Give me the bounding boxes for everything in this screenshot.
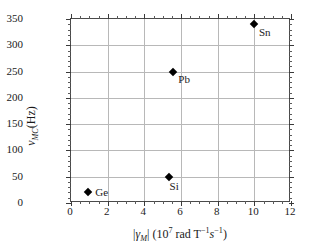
y-axis-tick-minor (68, 40, 71, 41)
y-axis-tick-minor-right (289, 145, 292, 146)
y-axis-tick-minor-right (289, 77, 292, 78)
x-axis-tick-minor (282, 201, 283, 204)
x-axis-tick-minor (154, 201, 155, 204)
y-axis-tick-label: 50 (12, 170, 23, 181)
x-axis-tick-minor (117, 201, 118, 204)
y-axis-tick-minor-right (289, 82, 292, 83)
gridline-vertical (181, 19, 182, 201)
gridline-vertical (254, 19, 255, 201)
x-axis-tick-minor (264, 201, 265, 204)
x-axis-tick-minor-top (99, 16, 100, 19)
y-axis-tick-minor (68, 35, 71, 36)
x-axis-tick-minor-top (80, 16, 81, 19)
y-axis-tick-minor (68, 114, 71, 115)
y-axis-tick-minor (68, 103, 71, 104)
scatter-chart-figure: νMC(Hz) |γM| (107 rad T−1s−1) GeSiPbSn 0… (0, 0, 316, 251)
y-axis-tick-minor-right (289, 40, 292, 41)
x-axis-tick-label: 6 (177, 206, 183, 217)
x-axis-tick-minor (99, 201, 100, 204)
x-axis-tick-minor-top (245, 16, 246, 19)
y-axis-tick-minor (68, 187, 71, 188)
x-axis-tick-major-top (218, 14, 219, 19)
y-axis-tick-minor (68, 87, 71, 88)
y-axis-tick-major (66, 98, 71, 99)
y-axis-tick-minor (68, 93, 71, 94)
y-axis-tick-minor (68, 182, 71, 183)
x-axis-bar-close: | (147, 227, 149, 241)
x-axis-paren-close: ) (223, 227, 227, 241)
y-axis-tick-minor-right (289, 93, 292, 94)
gridline-vertical (218, 19, 219, 201)
y-axis-tick-minor-right (289, 192, 292, 193)
y-axis-tick-major (66, 150, 71, 151)
y-axis-tick-minor-right (289, 51, 292, 52)
y-axis-tick-minor-right (289, 140, 292, 141)
gridline-horizontal (71, 98, 289, 99)
x-axis-rad-unit: rad T (172, 227, 200, 241)
x-axis-tick-minor-top (154, 16, 155, 19)
x-axis-tick-minor (163, 201, 164, 204)
y-axis-tick-minor (68, 198, 71, 199)
y-axis-tick-major (66, 45, 71, 46)
y-axis-tick-minor (68, 51, 71, 52)
y-axis-tick-major (66, 19, 71, 20)
y-axis-tick-minor-right (289, 61, 292, 62)
gridline-vertical (108, 19, 109, 201)
x-axis-tick-label: 2 (104, 206, 110, 217)
gridline-horizontal (71, 124, 289, 125)
data-point-pb (169, 67, 177, 75)
y-axis-tick-minor (68, 166, 71, 167)
plot-area: GeSiPbSn (70, 18, 290, 202)
y-axis-tick-label: 150 (7, 118, 24, 129)
y-axis-tick-minor-right (289, 156, 292, 157)
y-axis-tick-major-right (289, 19, 294, 20)
y-axis-tick-label: 200 (7, 91, 24, 102)
y-axis-tick-major-right (289, 150, 294, 151)
x-axis-base: 10 (156, 227, 168, 241)
x-axis-tick-label: 0 (67, 206, 73, 217)
y-axis-tick-minor (68, 145, 71, 146)
x-axis-tick-label: 4 (141, 206, 147, 217)
x-axis-tick-minor-top (227, 16, 228, 19)
y-axis-tick-minor (68, 30, 71, 31)
x-axis-tick-minor-top (117, 16, 118, 19)
x-axis-tesla-exponent: −1 (201, 226, 210, 235)
y-axis-tick-major-right (289, 72, 294, 73)
data-point-label-pb: Pb (178, 74, 190, 85)
x-axis-seconds-exponent: −1 (214, 226, 223, 235)
x-axis-tick-minor (172, 201, 173, 204)
x-axis-tick-label: 10 (248, 206, 259, 217)
y-axis-tick-minor (68, 161, 71, 162)
x-axis-tick-minor (245, 201, 246, 204)
y-axis-tick-minor (68, 129, 71, 130)
x-axis-title: |γM| (107 rad T−1s−1) (70, 226, 290, 243)
y-axis-tick-minor (68, 82, 71, 83)
x-axis-tick-minor-top (209, 16, 210, 19)
x-axis-tick-major-top (181, 14, 182, 19)
y-axis-tick-major (66, 124, 71, 125)
y-axis-tick-minor (68, 140, 71, 141)
y-axis-tick-minor (68, 156, 71, 157)
x-axis-tick-minor-top (199, 16, 200, 19)
x-axis-tick-minor (135, 201, 136, 204)
data-point-label-ge: Ge (95, 187, 108, 198)
y-axis-tick-major-right (289, 45, 294, 46)
y-axis-tick-minor-right (289, 30, 292, 31)
y-axis-tick-minor-right (289, 119, 292, 120)
x-axis-tick-minor (89, 201, 90, 204)
y-axis-unit: (Hz) (24, 106, 38, 128)
x-axis-tick-major-top (108, 14, 109, 19)
x-axis-tick-minor (190, 201, 191, 204)
y-axis-tick-major (66, 177, 71, 178)
x-axis-tick-label: 12 (285, 206, 296, 217)
x-axis-tick-minor-top (163, 16, 164, 19)
y-axis-tick-minor-right (289, 114, 292, 115)
x-axis-tick-minor-top (172, 16, 173, 19)
x-axis-tick-minor-top (264, 16, 265, 19)
y-axis-tick-minor-right (289, 161, 292, 162)
x-axis-subscript: M (140, 234, 147, 243)
y-axis-tick-major (66, 72, 71, 73)
x-axis-tick-minor (236, 201, 237, 204)
y-axis-tick-minor-right (289, 182, 292, 183)
y-axis-tick-minor-right (289, 56, 292, 57)
